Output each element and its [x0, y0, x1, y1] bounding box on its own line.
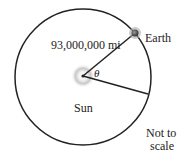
angle-label: θ — [94, 67, 100, 79]
distance-label: 93,000,000 mi — [51, 38, 121, 52]
note-line-2: scale — [150, 139, 174, 153]
earth-label: Earth — [145, 31, 171, 45]
sun-label: Sun — [74, 101, 93, 115]
earth-icon — [132, 30, 139, 37]
radius-lower — [83, 76, 148, 94]
orbit-diagram: 93,000,000 mi Earth θ Sun Not to scale — [0, 0, 187, 157]
sun-dot — [81, 74, 84, 77]
note-line-1: Not to — [146, 126, 176, 140]
